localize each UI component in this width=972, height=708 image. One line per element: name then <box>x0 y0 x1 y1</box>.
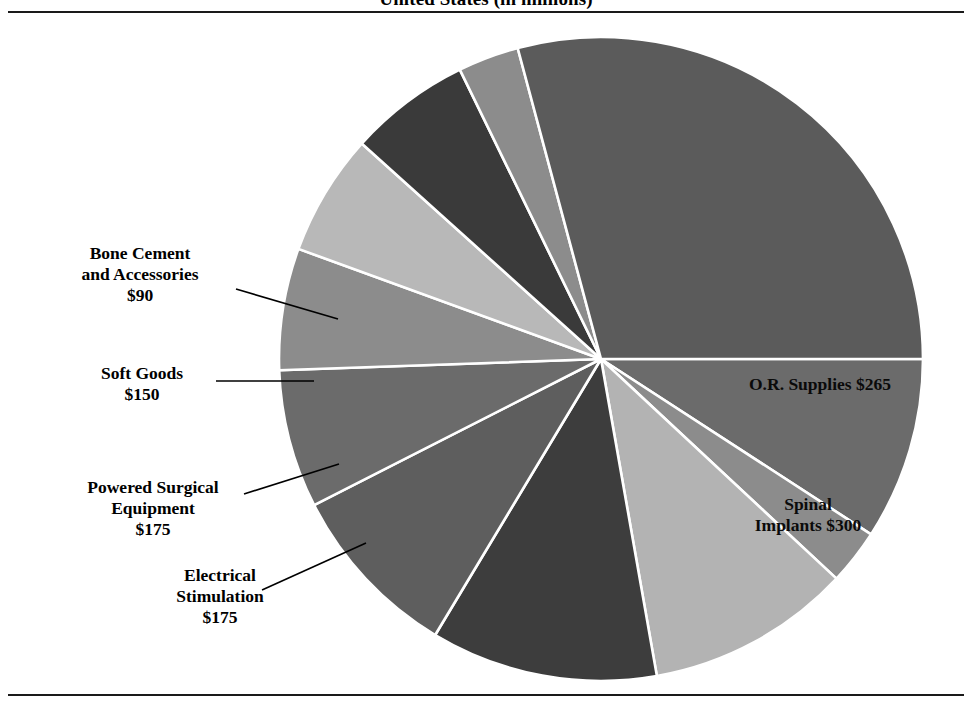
label-electrical-stimulation: Electrical Stimulation $175 <box>120 565 320 628</box>
label-spinal-amount: $300 <box>826 515 861 535</box>
label-spinal-line2: Implants <box>755 515 822 535</box>
label-soft-goods: Soft Goods $150 <box>46 363 238 405</box>
divider-bottom <box>8 694 964 696</box>
label-powered-line1: Powered Surgical <box>87 477 218 497</box>
label-powered-line2: Equipment <box>111 498 195 518</box>
label-powered-amount: $175 <box>38 519 268 540</box>
label-bone-cement-line2: and Accessories <box>81 264 198 284</box>
label-spinal-line1: Spinal <box>784 494 832 514</box>
label-soft-goods-amount: $150 <box>46 384 238 405</box>
pie-slice-group <box>279 37 923 681</box>
label-spinal-implants: Spinal Implants $300 <box>718 494 898 536</box>
label-electrical-line1: Electrical <box>184 565 256 585</box>
label-or-supplies: O.R. Supplies $265 <box>720 374 920 395</box>
label-or-supplies-line1: O.R. Supplies <box>749 374 852 394</box>
label-electrical-line2: Stimulation <box>176 586 264 606</box>
chart-page: United States (in millions) Bone Cement … <box>0 0 972 708</box>
label-bone-cement: Bone Cement and Accessories $90 <box>28 243 252 306</box>
label-or-supplies-amount: $265 <box>856 374 891 394</box>
label-electrical-amount: $175 <box>120 607 320 628</box>
label-soft-goods-line1: Soft Goods <box>101 363 183 383</box>
label-bone-cement-amount: $90 <box>28 285 252 306</box>
label-powered-surgical-equipment: Powered Surgical Equipment $175 <box>38 477 268 540</box>
label-bone-cement-line1: Bone Cement <box>90 243 191 263</box>
